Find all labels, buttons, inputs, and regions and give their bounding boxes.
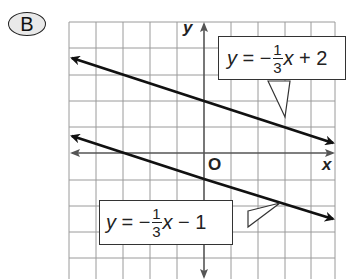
equation-label-1: y = − 13 x + 2	[218, 36, 346, 80]
equation-label-2: y = − 13 x − 1	[99, 200, 233, 245]
lines	[72, 58, 333, 219]
line-1	[204, 101, 333, 143]
x-axis-label: x	[322, 155, 331, 175]
y-axis-label: y	[183, 18, 192, 38]
origin-label: O	[208, 155, 221, 175]
